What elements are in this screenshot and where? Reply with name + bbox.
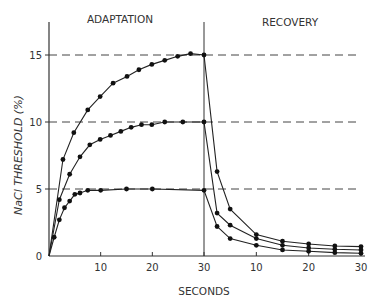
data-point [150,187,155,192]
axes: 051015102030102030 [29,22,367,273]
data-point [67,199,72,204]
data-point [306,249,311,254]
data-series [49,51,363,256]
y-tick-label: 15 [29,50,42,61]
data-point [85,188,90,193]
data-point [162,58,167,63]
y-tick-label: 5 [36,184,42,195]
data-point [280,248,285,253]
data-point [118,129,123,134]
x-tick-label: 10 [94,262,107,273]
data-point [280,243,285,248]
data-point [71,130,76,135]
data-point [87,142,92,147]
data-point [52,235,57,240]
data-point [98,137,103,142]
data-point [228,236,233,241]
series-15-nacl [49,51,363,256]
data-point [98,94,103,99]
data-point [215,169,220,174]
data-point [188,51,193,56]
threshold-chart: 051015102030102030 ADAPTATION RECOVERY S… [0,0,380,306]
data-point [228,223,233,228]
series-5-nacl [49,187,363,256]
data-point [254,243,259,248]
data-point [202,188,207,193]
data-point [78,154,83,159]
data-point [202,120,207,125]
data-point [78,191,83,196]
data-point [111,81,116,86]
x-tick-label: 10 [250,262,263,273]
data-point [124,187,129,192]
data-point [139,122,144,127]
data-point [62,205,67,210]
axis-labels: ADAPTATION RECOVERY SECONDS NaCl THRESHO… [12,13,319,297]
x-tick-label: 30 [198,262,211,273]
data-point [215,211,220,216]
data-point [129,125,134,130]
data-point [61,157,66,162]
y-tick-label: 0 [36,251,42,262]
x-tick-label: 30 [355,262,368,273]
series-line [49,189,361,256]
y-axis-title: NaCl THRESHOLD (%) [12,95,25,215]
data-point [149,122,154,127]
x-tick-label: 20 [146,262,159,273]
data-point [125,74,130,79]
data-point [137,67,142,72]
data-point [72,192,77,197]
y-tick-label: 10 [29,117,42,128]
data-point [359,251,364,256]
data-point [57,217,62,222]
x-tick-label: 20 [302,262,315,273]
data-point [162,120,167,125]
panel-title-adaptation: ADAPTATION [87,13,153,25]
x-axis-title: SECONDS [178,285,230,297]
data-point [202,53,207,58]
data-point [254,236,259,241]
data-point [175,54,180,59]
data-point [57,197,62,202]
series-line [49,54,361,256]
panel-title-recovery: RECOVERY [262,16,319,28]
data-point [332,250,337,255]
data-point [215,224,220,229]
data-point [228,207,233,212]
data-point [180,120,185,125]
data-point [149,62,154,67]
data-point [85,108,90,113]
data-point [98,188,103,193]
data-point [108,133,113,138]
data-point [67,172,72,177]
series-10-nacl [49,120,363,256]
